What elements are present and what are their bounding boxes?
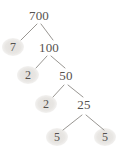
edge-50-2 — [53, 85, 64, 97]
edge-700-7 — [21, 24, 37, 40]
factor-tree-diagram: 700 7 100 2 50 2 25 5 5 — [0, 0, 119, 160]
node-100: 100 — [29, 41, 69, 54]
edge-25-5a — [63, 115, 82, 130]
edge-100-2 — [36, 56, 47, 68]
node-2-first: 2 — [8, 69, 48, 81]
node-700: 700 — [19, 9, 59, 22]
node-5-left: 5 — [37, 131, 77, 143]
node-25: 25 — [64, 98, 104, 111]
node-50: 50 — [46, 69, 86, 82]
edge-700-100 — [41, 24, 53, 40]
node-2-second: 2 — [26, 98, 66, 110]
edge-100-50 — [51, 56, 65, 68]
node-5-right: 5 — [85, 131, 119, 143]
edge-50-25 — [68, 85, 83, 97]
edge-25-5b — [86, 115, 104, 130]
